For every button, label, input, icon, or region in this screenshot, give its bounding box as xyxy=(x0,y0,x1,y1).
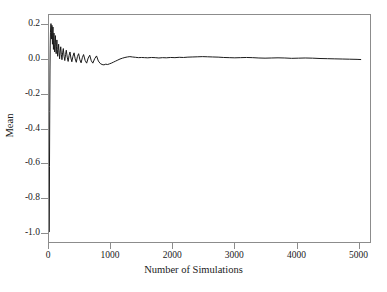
x-axis-tick-label: 3000 xyxy=(211,250,257,260)
y-axis-tick-label: -1.0 xyxy=(6,228,40,238)
series-line-running-mean xyxy=(49,15,370,242)
x-axis-tick-label: 5000 xyxy=(336,250,382,260)
x-axis-tick-label: 0 xyxy=(25,250,71,260)
y-axis-tick-label: -0.2 xyxy=(6,89,40,99)
y-axis-tick-label: 0.0 xyxy=(6,54,40,64)
x-axis-tick xyxy=(359,243,360,249)
x-axis-tick-label: 1000 xyxy=(87,250,133,260)
y-axis-tick-label: -0.8 xyxy=(6,193,40,203)
x-axis-tick xyxy=(110,243,111,249)
y-axis-tick xyxy=(41,24,48,25)
y-axis-tick xyxy=(41,198,48,199)
y-axis-tick xyxy=(41,129,48,130)
x-axis-tick xyxy=(297,243,298,249)
x-axis-title: Number of Simulations xyxy=(0,264,387,275)
y-axis-tick-label: -0.4 xyxy=(6,124,40,134)
y-axis-tick xyxy=(41,59,48,60)
plot-area xyxy=(48,14,371,243)
y-axis-tick xyxy=(41,94,48,95)
x-axis-tick xyxy=(234,243,235,249)
y-axis-tick xyxy=(41,163,48,164)
chart-figure: Mean 0.20.0-0.2-0.4-0.6-0.8-1.0 01000200… xyxy=(0,0,387,292)
y-axis-tick-label: -0.6 xyxy=(6,158,40,168)
x-axis-tick xyxy=(48,243,49,249)
x-axis-tick-label: 4000 xyxy=(274,250,320,260)
x-axis-tick xyxy=(172,243,173,249)
y-axis-tick-label: 0.2 xyxy=(6,19,40,29)
y-axis-tick-group: 0.20.0-0.2-0.4-0.6-0.8-1.0 xyxy=(0,0,40,292)
x-axis-tick-label: 2000 xyxy=(149,250,195,260)
y-axis-tick xyxy=(41,233,48,234)
